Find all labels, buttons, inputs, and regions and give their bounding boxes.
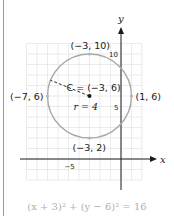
- x-axis-arrow-icon: [150, 156, 157, 162]
- x-tick-label: −5: [65, 163, 75, 171]
- center-point: [88, 94, 92, 98]
- y-tick-label: 5: [114, 104, 118, 112]
- circle-diagram: x y −5 10 5 C = (−3, 6) r = 4 (−3, 10) (…: [0, 0, 174, 216]
- point-left-marker: [46, 94, 49, 97]
- point-bottom-marker: [88, 136, 91, 139]
- center-label: C = (−3, 6): [67, 82, 121, 93]
- radius-label: r = 4: [74, 101, 99, 112]
- x-axis-label: x: [160, 154, 166, 165]
- y-axis-arrow-icon: [118, 27, 124, 34]
- y-tick-label: 10: [109, 51, 118, 59]
- point-right-marker: [130, 94, 133, 97]
- point-right-label: (1, 6): [136, 91, 162, 102]
- point-left-label: (−7, 6): [10, 91, 44, 102]
- point-top-marker: [88, 52, 91, 55]
- y-axis-label: y: [117, 13, 124, 24]
- point-bottom-label: (−3, 2): [73, 142, 107, 153]
- point-top-label: (−3, 10): [71, 40, 111, 51]
- circle-equation: (x + 3)² + (y − 6)² = 16: [27, 201, 146, 212]
